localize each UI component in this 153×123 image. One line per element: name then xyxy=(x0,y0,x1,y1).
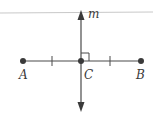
label-a: A xyxy=(18,68,28,82)
point-a xyxy=(20,58,26,64)
label-b: B xyxy=(135,68,145,82)
arrowhead-up-icon xyxy=(78,10,85,20)
arrowhead-down-icon xyxy=(78,102,85,112)
top-rule xyxy=(0,12,153,13)
label-m: m xyxy=(88,7,99,21)
perpendicular-bisector-diagram: m A C B xyxy=(0,0,153,123)
point-b xyxy=(138,58,144,64)
label-c: C xyxy=(84,68,93,82)
point-c xyxy=(78,58,84,64)
